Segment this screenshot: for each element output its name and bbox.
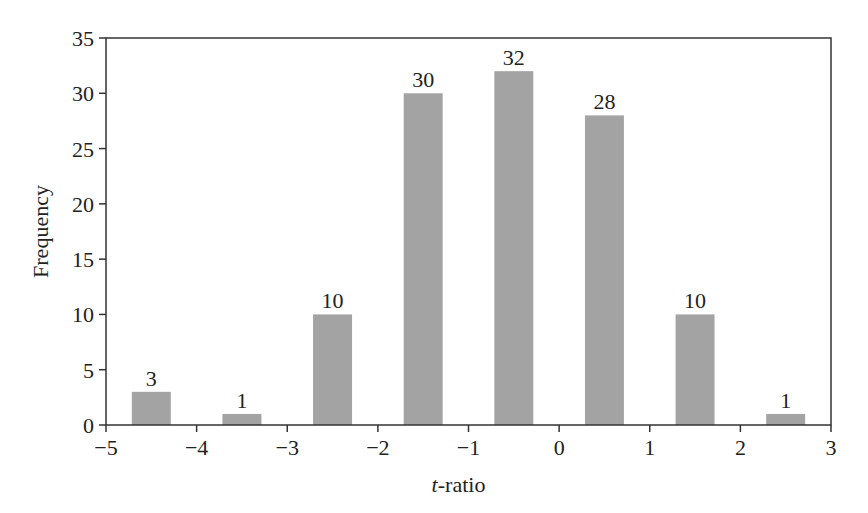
bar-value-label: 28 [593,89,615,114]
y-tick-label: 10 [72,302,94,327]
histogram-bar [766,414,805,425]
x-tick-label: 2 [735,435,746,460]
x-tick-label: −2 [366,435,389,460]
x-axis-ticks: −5−4−3−2−10123 [94,425,836,460]
bars-group [132,71,805,425]
histogram-bar [404,93,443,425]
x-tick-label: 0 [554,435,565,460]
y-tick-label: 5 [83,358,94,383]
y-tick-label: 25 [72,137,94,162]
y-tick-label: 15 [72,247,94,272]
y-axis-label: Frequency [28,185,53,278]
bar-value-label: 3 [146,366,157,391]
x-tick-label: −4 [185,435,208,460]
histogram-bar [313,314,352,425]
x-tick-label: 3 [826,435,837,460]
histogram-bar [585,115,624,425]
bar-value-label: 30 [412,67,434,92]
histogram-bar [494,71,533,425]
histogram-bar [676,314,715,425]
histogram-bar [222,414,261,425]
y-tick-label: 0 [83,413,94,438]
y-axis-ticks: 05101520253035 [72,26,106,438]
histogram-chart: 3110303228101 −5−4−3−2−10123 05101520253… [0,0,868,513]
bar-value-label: 32 [503,45,525,70]
x-tick-label: 1 [644,435,655,460]
histogram-bar [132,392,171,425]
bar-value-label: 10 [684,288,706,313]
y-tick-label: 30 [72,81,94,106]
bar-value-label: 1 [780,388,791,413]
bar-value-label: 1 [236,388,247,413]
x-tick-label: −1 [457,435,480,460]
y-tick-label: 20 [72,192,94,217]
x-tick-label: −3 [276,435,299,460]
x-axis-label: t-ratio [432,472,486,497]
plot-frame [106,38,831,425]
y-tick-label: 35 [72,26,94,51]
x-tick-label: −5 [94,435,117,460]
bar-value-label: 10 [322,288,344,313]
